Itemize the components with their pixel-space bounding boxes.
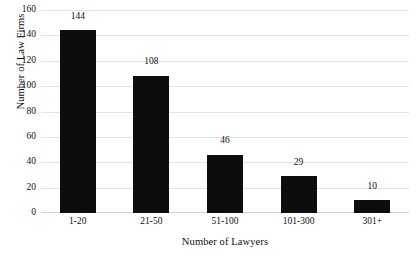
x-axis-tick-labels: 1-20 21-50 51-100 101-300 301+ — [41, 217, 409, 231]
bar-group: 144 — [41, 10, 115, 213]
bar-21-50[interactable] — [133, 76, 169, 213]
bar-51-100[interactable] — [207, 155, 243, 213]
x-tick-label-51-100: 51-100 — [212, 217, 239, 227]
y-tick-label: 80 — [4, 107, 36, 117]
bar-101-300[interactable] — [281, 176, 317, 213]
x-tick-label-101-300: 101-300 — [283, 217, 315, 227]
bar-group: 10 — [335, 10, 409, 213]
y-tick-label: 40 — [4, 158, 36, 168]
y-axis-tick-labels: 160 140 120 100 80 60 40 20 0 — [0, 10, 36, 213]
y-tick-label: 120 — [4, 56, 36, 66]
y-tick-label: 60 — [4, 132, 36, 142]
bar-value-label: 29 — [294, 158, 304, 168]
bar-group: 108 — [115, 10, 189, 213]
x-tick-label-1-20: 1-20 — [69, 217, 86, 227]
bar-group: 29 — [262, 10, 336, 213]
plot-area: 144 108 46 29 10 — [41, 10, 409, 213]
bar-chart: Number of Law Firms 160 140 120 100 80 6… — [0, 0, 416, 256]
y-tick-label: 140 — [4, 31, 36, 41]
x-tick-label-301-plus: 301+ — [362, 217, 382, 227]
y-tick-label: 100 — [4, 81, 36, 91]
bars-layer: 144 108 46 29 10 — [41, 10, 409, 213]
y-tick-label: 20 — [4, 183, 36, 193]
bar-1-20[interactable] — [60, 30, 96, 213]
bar-value-label: 108 — [144, 57, 158, 67]
bar-group: 46 — [188, 10, 262, 213]
bar-301-plus[interactable] — [354, 200, 390, 213]
bar-value-label: 46 — [220, 136, 230, 146]
y-tick-label: 160 — [4, 5, 36, 15]
y-tick-label: 0 — [4, 208, 36, 218]
bar-value-label: 144 — [71, 12, 85, 22]
bar-value-label: 10 — [367, 182, 377, 192]
x-tick-label-21-50: 21-50 — [140, 217, 162, 227]
x-axis-title: Number of Lawyers — [41, 236, 409, 247]
